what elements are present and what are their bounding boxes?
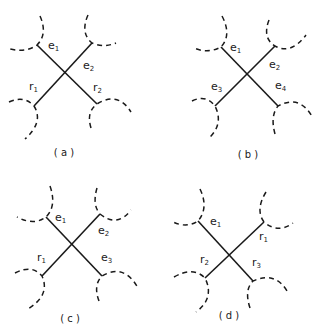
- caption-a: ( a ): [54, 147, 74, 158]
- dashed-arc-bottom-left: [9, 99, 37, 139]
- edge-top-left-to-bottom-right: [46, 217, 102, 276]
- dashed-arc-bottom-right: [248, 278, 287, 308]
- edge-top-right-to-bottom-left: [34, 43, 92, 106]
- label-top-left: e1: [48, 39, 59, 53]
- dashed-arc-top-left: [171, 189, 204, 225]
- label-top-right: e2: [98, 224, 109, 238]
- edge-top-left-to-bottom-right: [221, 47, 278, 106]
- panel-a: e1 e2 r1 r2 ( a ): [9, 15, 131, 158]
- label-bottom-left: r1: [37, 251, 46, 265]
- edge-top-right-to-bottom-left: [205, 222, 264, 278]
- label-bottom-left: r1: [29, 80, 38, 94]
- label-bottom-right: e3: [101, 251, 112, 265]
- dashed-arc-top-left: [17, 186, 53, 222]
- label-top-left: e1: [55, 211, 66, 225]
- edge-top-right-to-bottom-left: [42, 214, 100, 276]
- label-top-left: e1: [230, 41, 241, 55]
- figure-canvas: e1 e2 r1 r2 ( a ) e1 e2 e3 e4 ( b ) e1 e…: [0, 0, 320, 334]
- dashed-arc-top-right: [260, 192, 293, 228]
- label-bottom-left: r2: [200, 253, 209, 267]
- dashed-arc-top-left: [10, 16, 43, 50]
- label-bottom-right: r2: [93, 81, 102, 95]
- label-bottom-right: r3: [252, 256, 261, 270]
- dashed-arc-bottom-left: [15, 269, 44, 310]
- panel-c: e1 e2 r1 e3 ( c ): [15, 186, 138, 324]
- dashed-arc-bottom-right: [273, 102, 313, 134]
- dashed-arc-top-right: [267, 20, 306, 49]
- dashed-arc-bottom-left: [192, 98, 218, 138]
- panel-d: e1 r1 r2 r3 ( d ): [171, 189, 293, 321]
- label-bottom-right: e4: [275, 79, 287, 93]
- dashed-arc-bottom-right: [97, 272, 138, 301]
- label-top-right: e2: [83, 59, 94, 73]
- label-top-left: e1: [210, 215, 221, 229]
- dashed-arc-bottom-left: [174, 272, 208, 312]
- dashed-arc-top-right: [95, 188, 131, 220]
- caption-c: ( c ): [60, 313, 80, 324]
- panel-b: e1 e2 e3 e4 ( b ): [192, 16, 313, 160]
- edge-top-right-to-bottom-left: [215, 46, 275, 106]
- dashed-arc-top-right: [85, 15, 116, 46]
- caption-b: ( b ): [238, 149, 259, 160]
- label-top-right: e2: [269, 58, 280, 72]
- edge-top-left-to-bottom-right: [37, 45, 97, 104]
- dashed-arc-top-left: [194, 16, 227, 51]
- edge-top-left-to-bottom-right: [198, 221, 253, 281]
- label-top-right: r1: [259, 230, 268, 244]
- caption-d: ( d ): [219, 310, 240, 321]
- label-bottom-left: e3: [211, 80, 222, 94]
